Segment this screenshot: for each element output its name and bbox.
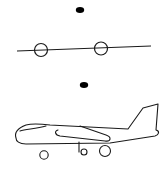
airplane-drawing: [15, 82, 158, 159]
top-dot: [76, 7, 84, 13]
figure-canvas: [0, 0, 166, 173]
wing: [56, 126, 110, 141]
horizon-line: [17, 46, 151, 51]
abstract-plane: [17, 7, 151, 57]
middle-wheel: [81, 149, 87, 155]
front-wheel: [40, 151, 48, 159]
rear-wheel: [100, 146, 111, 157]
cockpit-window: [20, 126, 46, 131]
bottom-dot: [80, 82, 88, 88]
fuselage: [15, 104, 158, 144]
